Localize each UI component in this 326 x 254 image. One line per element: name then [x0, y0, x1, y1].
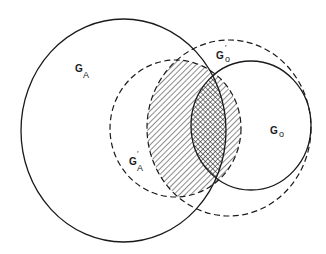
label-G-A: G A	[75, 63, 89, 80]
hatched-region	[147, 40, 311, 216]
svg-text:A: A	[83, 70, 89, 80]
svg-text:G: G	[270, 125, 278, 136]
svg-text:G: G	[216, 50, 224, 61]
svg-text:o: o	[279, 129, 284, 139]
venn-diagram: G A G ′ A G o G ′ o	[0, 0, 326, 254]
svg-text:G: G	[75, 63, 83, 74]
svg-text:A: A	[137, 163, 143, 173]
label-G-o: G o	[270, 125, 284, 139]
label-G-A-prime: G ′ A	[129, 149, 143, 173]
label-G-o-prime: G ′ o	[216, 43, 230, 64]
svg-text:′: ′	[225, 43, 227, 52]
svg-text:o: o	[225, 54, 230, 64]
svg-text:′: ′	[137, 149, 139, 158]
diagram-svg: G A G ′ A G o G ′ o	[0, 0, 326, 254]
svg-text:G: G	[129, 156, 137, 167]
